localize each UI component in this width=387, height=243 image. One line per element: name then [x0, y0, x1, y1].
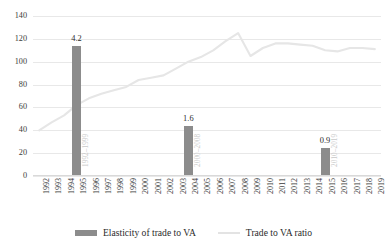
bar-value-label: 1.6: [183, 114, 193, 123]
line-swatch-icon: [218, 232, 240, 234]
y-axis-tick-label: 120: [15, 35, 27, 43]
gridline: [33, 176, 381, 177]
x-axis-tick-label: 2012: [291, 178, 299, 194]
x-axis-tick-label: 2019: [378, 178, 386, 194]
bar-group[interactable]: 4.21992–1999: [72, 46, 81, 176]
y-axis-tick-label: 20: [19, 149, 27, 157]
plot-area: 4.21992–19991.62000–20080.92010–2019: [33, 16, 381, 176]
axis-baseline: [33, 175, 381, 176]
x-axis-tick-label: 1999: [130, 178, 138, 194]
y-axis-tick-label: 60: [19, 103, 27, 111]
x-axis-tick-label: 2010: [267, 178, 275, 194]
x-axis-tick-label: 1995: [80, 178, 88, 194]
y-axis-tick-label: 140: [15, 12, 27, 20]
x-axis-tick-label: 2006: [217, 178, 225, 194]
chart-container: 020406080100120140 4.21992–19991.62000–2…: [0, 0, 387, 243]
x-axis-tick-label: 1996: [93, 178, 101, 194]
x-axis-tick-label: 1998: [117, 178, 125, 194]
x-axis-tick-label: 2013: [304, 178, 312, 194]
chart-legend: Elasticity of trade to VA Trade to VA ra…: [0, 228, 387, 238]
legend-item-elasticity[interactable]: Elasticity of trade to VA: [75, 228, 196, 238]
legend-label-elasticity: Elasticity of trade to VA: [103, 228, 196, 238]
bar-swatch-icon: [75, 230, 97, 236]
x-axis-tick-label: 2009: [254, 178, 262, 194]
x-axis-tick-label: 2015: [329, 178, 337, 194]
x-axis-tick-label: 2004: [192, 178, 200, 194]
x-axis-tick-label: 2018: [366, 178, 374, 194]
x-axis-tick-label: 2007: [229, 178, 237, 194]
bar-period-label: 2000–2008: [195, 134, 202, 167]
bar-group[interactable]: 0.92010–2019: [321, 148, 330, 176]
x-axis-tick-label: 2011: [279, 178, 287, 194]
x-axis-tick-label: 2001: [155, 178, 163, 194]
bar-group[interactable]: 1.62000–2008: [184, 126, 193, 176]
y-axis: 020406080100120140: [0, 16, 31, 176]
x-axis-tick-label: 2000: [142, 178, 150, 194]
y-axis-tick-label: 100: [15, 58, 27, 66]
bar-period-label: 2010–2019: [332, 134, 339, 167]
x-axis-tick-label: 1992: [43, 178, 51, 194]
x-axis-tick-label: 2005: [204, 178, 212, 194]
x-axis-tick-label: 2003: [180, 178, 188, 194]
x-axis-tick-label: 1997: [105, 178, 113, 194]
bar-series-layer: 4.21992–19991.62000–20080.92010–2019: [33, 16, 381, 176]
bar-period-label: 1992–1999: [83, 134, 90, 167]
bar[interactable]: [321, 148, 330, 176]
x-axis-tick-label: 2014: [316, 178, 324, 194]
y-axis-tick-label: 40: [19, 126, 27, 134]
y-axis-tick-label: 0: [23, 172, 27, 180]
legend-item-ratio[interactable]: Trade to VA ratio: [218, 228, 312, 238]
x-axis-tick-label: 2017: [354, 178, 362, 194]
bar[interactable]: [72, 46, 81, 176]
x-axis-tick-label: 2008: [242, 178, 250, 194]
x-axis-tick-label: 1993: [55, 178, 63, 194]
bar-value-label: 0.9: [320, 136, 330, 145]
x-axis-tick-label: 1994: [68, 178, 76, 194]
y-axis-tick-label: 80: [19, 81, 27, 89]
x-axis: 1992199319941995199619971998199920002001…: [33, 178, 381, 218]
legend-label-ratio: Trade to VA ratio: [246, 228, 312, 238]
x-axis-tick-label: 2016: [341, 178, 349, 194]
x-axis-tick-label: 2002: [167, 178, 175, 194]
bar[interactable]: [184, 126, 193, 176]
bar-value-label: 4.2: [71, 34, 81, 43]
